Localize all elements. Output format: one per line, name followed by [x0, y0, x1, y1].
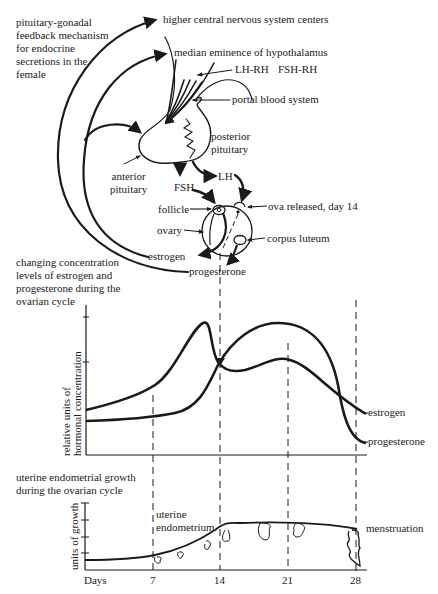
x-tick-14: 14 — [214, 574, 225, 587]
x-tick-7: 7 — [150, 574, 156, 587]
series-label-progesterone: progesterone — [368, 435, 425, 448]
uterine-endometrium-annotation: uterine endometrium — [156, 508, 215, 534]
label-progesterone: progesterone — [189, 265, 246, 278]
label-fsh: FSH — [174, 181, 194, 194]
label-posterior-pituitary: posterior pituitary — [211, 130, 250, 156]
menstruation-label: menstruation — [366, 522, 423, 535]
estrogen-curve — [86, 322, 366, 414]
ovary — [184, 202, 267, 264]
endometrium-curve — [85, 523, 357, 560]
diagram-title: pituitary-gonadal feedback mechanism for… — [16, 16, 109, 81]
uterine-chart-caption: uterine endometrial growth during the ov… — [16, 471, 136, 497]
uterine-chart — [81, 503, 367, 570]
x-axis-title-days: Days — [84, 574, 107, 587]
hormone-chart — [83, 253, 368, 575]
label-follicle: follicle — [158, 203, 189, 216]
label-ova-released: ova released, day 14 — [268, 200, 358, 213]
hormone-y-label: relative units of hormonal concentration — [61, 351, 83, 456]
label-portal-blood-system: portal blood system — [232, 93, 319, 106]
label-higher-cns: higher central nervous system centers — [163, 13, 329, 26]
label-anterior-pituitary: anterior pituitary — [110, 170, 147, 196]
label-lh: LH — [218, 170, 233, 183]
hormone-chart-caption: changing concentration levels of estroge… — [16, 256, 120, 308]
label-fsh-rh: FSH-RH — [278, 63, 317, 76]
label-lh-rh: LH-RH — [235, 63, 269, 76]
series-label-estrogen: estrogen — [368, 406, 405, 419]
label-corpus-luteum: corpus luteum — [267, 232, 330, 245]
uterine-y-label: units of growth — [69, 503, 80, 570]
label-ovary: ovary — [157, 224, 182, 237]
label-estrogen: estrogen — [148, 250, 185, 263]
label-median-eminence: median eminence of hypothalamus — [174, 46, 328, 59]
x-tick-28: 28 — [350, 574, 361, 587]
x-tick-21: 21 — [282, 574, 293, 587]
